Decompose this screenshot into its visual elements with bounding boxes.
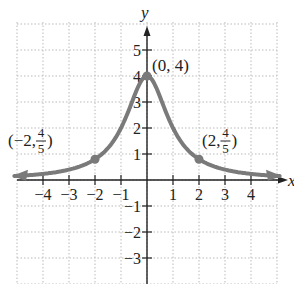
- svg-text:4: 4: [38, 125, 45, 140]
- svg-text:−3: −3: [124, 250, 141, 267]
- svg-text:1: 1: [133, 146, 141, 163]
- svg-text:5: 5: [222, 141, 229, 156]
- svg-text:x: x: [287, 171, 294, 190]
- svg-text:y: y: [139, 3, 149, 22]
- point-label: (0, 4): [152, 56, 189, 75]
- svg-text:4: 4: [222, 125, 229, 140]
- point-marker: [91, 155, 100, 164]
- svg-text:): ): [231, 131, 237, 150]
- point-marker: [143, 72, 152, 81]
- labels: (−2, 45)(0, 4)(2, 45): [8, 56, 237, 156]
- svg-text:(−2,: (−2,: [8, 131, 36, 150]
- svg-text:5: 5: [38, 141, 45, 156]
- point-label: (2, 45): [202, 125, 237, 156]
- function-graph: −4−3−2−11234−3−2−112345xy (−2, 45)(0, 4)…: [0, 0, 294, 284]
- svg-text:−2: −2: [124, 224, 141, 241]
- svg-text:3: 3: [221, 186, 229, 203]
- svg-text:−4: −4: [34, 186, 51, 203]
- left-arrow-icon: [12, 170, 28, 181]
- svg-text:−2: −2: [86, 186, 103, 203]
- svg-text:4: 4: [247, 186, 255, 203]
- svg-text:−1: −1: [124, 198, 141, 215]
- svg-text:5: 5: [133, 42, 141, 59]
- point-marker: [195, 155, 204, 164]
- point-label: (−2, 45): [8, 125, 53, 156]
- svg-text:2: 2: [195, 186, 203, 203]
- svg-text:): ): [47, 131, 53, 150]
- svg-text:1: 1: [169, 186, 177, 203]
- y-axis-arrow-icon: [144, 26, 151, 36]
- axes: −4−3−2−11234−3−2−112345xy: [17, 3, 294, 284]
- svg-text:2: 2: [133, 120, 141, 137]
- svg-text:(2,: (2,: [202, 131, 220, 150]
- svg-text:−3: −3: [60, 186, 77, 203]
